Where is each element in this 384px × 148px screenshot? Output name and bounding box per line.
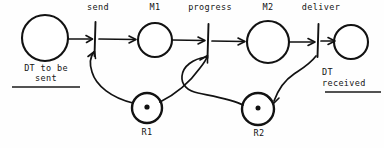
arc-r1-to-progress <box>160 57 207 102</box>
transition-label-send: send <box>78 2 118 12</box>
arc-r1-to-send <box>90 52 133 103</box>
petri-net-diagram: send M1 progress M2 deliver DT to be sen… <box>0 0 384 148</box>
token-dot-r2 <box>256 106 261 111</box>
arc-progress-to-m2 <box>212 41 244 42</box>
place-dt-received <box>334 25 368 59</box>
place-label-r2: R2 <box>242 128 276 138</box>
transition-label-progress: progress <box>182 2 238 12</box>
transition-deliver <box>318 24 319 57</box>
arc-send-to-m1 <box>99 39 135 40</box>
arc-m1-to-progress <box>172 40 204 41</box>
place-label-dt-to-be-sent-line2: sent <box>8 73 84 83</box>
place-label-dt-to-be-sent-line1: DT to be <box>8 63 84 73</box>
transition-progress <box>208 24 209 58</box>
transition-label-deliver: deliver <box>297 2 345 12</box>
place-label-dt-received-line1: DT <box>322 67 384 77</box>
place-label-m1: M1 <box>138 2 172 12</box>
arc-deliver-to-r2 <box>274 56 316 101</box>
place-m2 <box>247 21 289 63</box>
place-label-dt-received-line2: received <box>322 78 384 88</box>
place-label-r1: R1 <box>130 127 164 137</box>
arc-progress-to-r2 <box>182 57 243 105</box>
place-dt-to-be-sent <box>22 15 68 61</box>
token-dot-r1 <box>144 104 149 109</box>
place-label-m2: M2 <box>251 2 285 12</box>
place-m1 <box>138 23 172 57</box>
